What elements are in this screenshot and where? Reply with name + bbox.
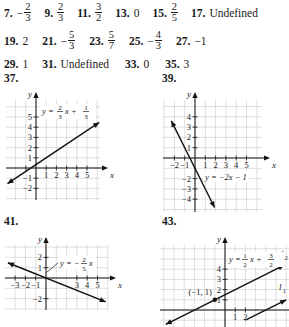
line-label: l <box>279 282 282 292</box>
y-tick-label: 2 <box>217 285 221 295</box>
y-tick-label: −2 <box>182 174 191 184</box>
x-tick-label: 5 <box>85 170 89 180</box>
denominator: 3 <box>58 113 62 121</box>
y-axis-label: y <box>216 234 221 244</box>
series-arrow-end <box>99 297 106 302</box>
numerator: 1 <box>243 252 247 260</box>
line-label-subscript: 2 <box>285 255 288 261</box>
y-tick-label: −3 <box>182 184 191 194</box>
y-tick-label: 1 <box>187 143 191 153</box>
y-tick-label: −4 <box>182 194 192 204</box>
y-axis-arrow <box>192 92 197 98</box>
x-tick-label: −1 <box>31 280 40 290</box>
y-axis-label: y <box>37 234 42 244</box>
series-arrow-start <box>8 263 15 268</box>
x-tick-label: −2 <box>170 160 179 170</box>
y-tick-label: 3 <box>187 122 191 132</box>
y-tick-label: 5 <box>28 112 32 122</box>
denominator: 5 <box>82 265 86 273</box>
x-tick-label: 2 <box>54 170 58 180</box>
numerator: 1 <box>84 104 88 112</box>
x-tick-label: 3 <box>224 160 228 170</box>
x-axis-label: x <box>117 280 122 290</box>
x-tick-label: 4 <box>85 280 90 290</box>
denominator: 3 <box>84 113 88 121</box>
point-label: (−1, 1) <box>189 287 212 297</box>
graph-39 <box>163 94 268 212</box>
x-tick-label: 5 <box>244 160 248 170</box>
x-tick-label: 1 <box>44 170 48 180</box>
x-axis-arrow <box>264 155 270 160</box>
x-tick-label: −3 <box>11 280 20 290</box>
denominator: 2 <box>269 261 273 269</box>
equation-text: x <box>88 258 93 268</box>
y-tick-label: −2 <box>23 183 32 193</box>
equation-text: y = −2x − 1 <box>204 172 247 182</box>
x-axis-arrow <box>110 275 116 280</box>
equation-text: x + <box>64 106 77 116</box>
equation-text: x + <box>249 254 262 264</box>
y-tick-label: −2 <box>33 294 42 304</box>
y-axis-label: y <box>186 89 191 99</box>
x-tick-label: 5 <box>95 280 99 290</box>
x-tick-label: 3 <box>75 280 79 290</box>
y-tick-label: 1 <box>217 295 221 305</box>
y-axis-arrow <box>222 237 227 243</box>
x-tick-label: 2 <box>243 312 247 322</box>
denominator: 2 <box>243 261 247 269</box>
y-axis-arrow <box>43 237 48 243</box>
x-tick-label: 3 <box>64 170 68 180</box>
y-tick-label: 3 <box>28 132 32 142</box>
graph-37: xy12345−2−112345xy−2−112345−4−3−21234xy−… <box>0 0 289 327</box>
graph-41 <box>5 239 114 310</box>
x-axis-arrow <box>102 165 108 170</box>
line-label-subscript: 1 <box>283 288 286 294</box>
y-tick-label: 2 <box>187 132 191 142</box>
x-tick-label: −1 <box>180 160 189 170</box>
series-arrow-start <box>7 178 13 183</box>
x-axis-label: x <box>109 170 114 180</box>
numerator: 2 <box>58 104 62 112</box>
equation-text: y = <box>41 106 54 116</box>
y-tick-label: 1 <box>38 263 42 273</box>
x-tick-label: 2 <box>213 160 217 170</box>
x-tick-label: 4 <box>234 160 239 170</box>
equation-text: y = <box>228 254 241 264</box>
equation-text: y = − <box>59 258 80 268</box>
x-axis-label: x <box>271 160 276 170</box>
y-axis-label: y <box>27 89 32 99</box>
numerator: 2 <box>82 256 86 264</box>
numerator: 3 <box>269 252 273 260</box>
x-tick-label: 4 <box>75 170 80 180</box>
x-tick-label: −2 <box>21 280 30 290</box>
x-tick-label: 1 <box>203 160 207 170</box>
y-tick-label: 2 <box>28 143 32 153</box>
y-tick-label: −1 <box>23 173 32 183</box>
y-tick-label: 1 <box>28 153 32 163</box>
y-tick-label: 2 <box>38 252 42 262</box>
y-axis-arrow <box>33 92 38 98</box>
y-tick-label: 3 <box>217 274 221 284</box>
x-tick-label: 1 <box>233 312 237 322</box>
